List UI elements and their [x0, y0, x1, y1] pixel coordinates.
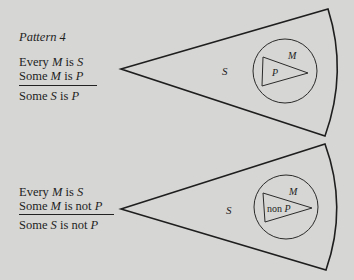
term-p: P: [284, 203, 291, 214]
s-sector-shape: [121, 9, 337, 136]
label-s: S: [222, 65, 228, 77]
label-s: S: [226, 204, 232, 216]
sector-diagram-bottom: S M non P: [121, 144, 337, 270]
syllogism-diagrams: S M P S M non P: [0, 0, 354, 280]
label-m: M: [288, 186, 298, 197]
label-non-p: non P: [267, 203, 291, 214]
label-p: P: [271, 67, 278, 78]
p-triangle: [262, 57, 308, 86]
sector-diagram-top: S M P: [121, 9, 337, 136]
label-m: M: [287, 50, 297, 61]
text: non: [267, 203, 285, 214]
